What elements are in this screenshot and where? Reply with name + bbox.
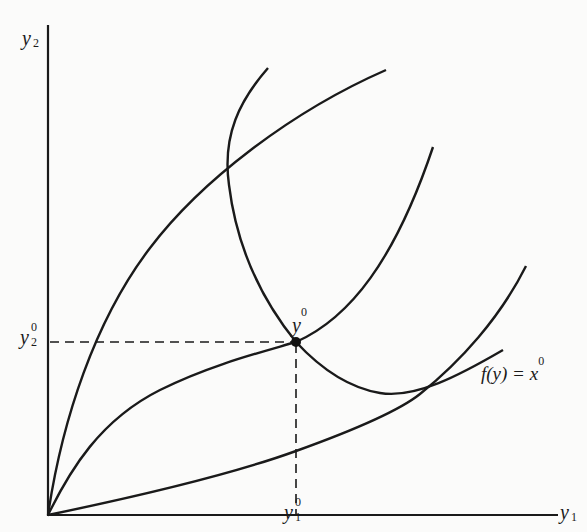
y2-axis-letter: y — [22, 27, 31, 49]
diagram-canvas — [0, 0, 587, 532]
ray-curve-3 — [48, 266, 526, 515]
y1-tick-letter: y — [284, 501, 293, 523]
y1-axis-subscript: 1 — [571, 511, 577, 523]
y2-tick-letter: y — [20, 326, 29, 348]
y2-zero-tick-label: y02 — [20, 327, 29, 347]
boundary-arc — [227, 68, 503, 394]
ray-curve-1 — [48, 70, 386, 515]
y1-axis-label: y1 — [560, 502, 569, 522]
y1-tick-subscript: 1 — [295, 511, 301, 523]
point-y0-label: y0 — [292, 314, 307, 335]
curve-label-text: f(y) = x — [481, 363, 538, 384]
point-y0-marker — [291, 337, 301, 347]
y1-tick-superscript: 0 — [295, 496, 301, 508]
curve-label-superscript: 0 — [538, 354, 544, 368]
y1-axis-letter: y — [560, 501, 569, 523]
y2-tick-subscript: 2 — [31, 336, 37, 348]
diagram-figure: y2 y1 y02 y01 y0 f(y) = x0 — [0, 0, 587, 532]
y1-zero-tick-label: y01 — [284, 502, 293, 522]
point-superscript: 0 — [301, 305, 307, 319]
y2-axis-label: y2 — [22, 28, 31, 48]
ray-curve-2 — [48, 147, 433, 515]
y2-axis-subscript: 2 — [33, 37, 39, 49]
curve-label-f-y: f(y) = x0 — [481, 363, 544, 383]
point-letter: y — [292, 314, 301, 336]
y2-tick-superscript: 0 — [31, 321, 37, 333]
